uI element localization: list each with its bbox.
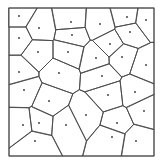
- voronoi-site-dot: [18, 37, 20, 39]
- voronoi-site-dot: [99, 23, 101, 25]
- voronoi-site-dot: [143, 110, 145, 112]
- voronoi-site-dot: [109, 43, 111, 45]
- voronoi-site-dot: [48, 100, 50, 102]
- voronoi-site-dot: [111, 136, 113, 138]
- voronoi-site-dot: [129, 31, 131, 33]
- voronoi-site-dot: [101, 75, 103, 77]
- voronoi-site-dot: [116, 122, 118, 124]
- voronoi-site-dot: [22, 124, 24, 126]
- voronoi-site-dot: [121, 56, 123, 58]
- voronoi-site-dot: [38, 122, 40, 124]
- voronoi-site-dot: [71, 34, 73, 36]
- voronoi-site-dot: [58, 72, 60, 74]
- voronoi-site-dot: [95, 57, 97, 59]
- voronoi-site-dot: [107, 94, 109, 96]
- voronoi-site-dot: [85, 114, 87, 116]
- voronoi-site-dot: [67, 51, 69, 53]
- voronoi-site-dot: [135, 140, 137, 142]
- voronoi-diagram: [0, 0, 163, 165]
- voronoi-site-dot: [70, 21, 72, 23]
- voronoi-site-dot: [145, 64, 147, 66]
- voronoi-site-dot: [38, 27, 40, 29]
- voronoi-site-dot: [37, 51, 39, 53]
- voronoi-site-dot: [145, 19, 147, 21]
- voronoi-site-dot: [65, 124, 67, 126]
- voronoi-site-dot: [18, 15, 20, 17]
- diagram-border: [9, 8, 154, 156]
- voronoi-site-dot: [23, 89, 25, 91]
- voronoi-site-dot: [18, 71, 20, 73]
- voronoi-site-dot: [34, 140, 36, 142]
- voronoi-site-dot: [126, 16, 128, 18]
- voronoi-site-dot: [134, 91, 136, 93]
